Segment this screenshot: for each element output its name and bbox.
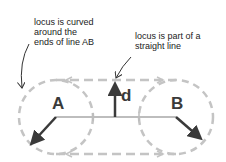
label-a: A: [52, 95, 64, 112]
radius-arrow-b: [176, 117, 199, 137]
pointer-arrow-right: [116, 57, 131, 78]
radius-arrow-a: [33, 117, 56, 142]
locus-diagram: locus is curved around the ends of line …: [0, 0, 226, 162]
label-b: B: [171, 95, 183, 112]
annotation-right: locus is part of a straight line: [135, 31, 201, 51]
pointer-arrow-left: [21, 44, 29, 88]
label-d: d: [121, 87, 131, 104]
annotation-left: locus is curved around the ends of line …: [34, 17, 94, 47]
